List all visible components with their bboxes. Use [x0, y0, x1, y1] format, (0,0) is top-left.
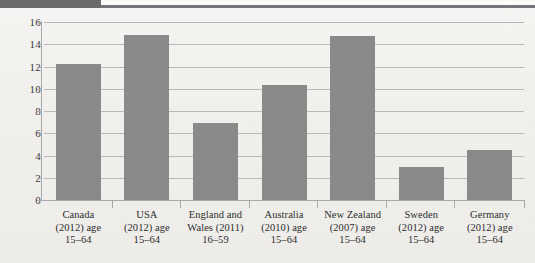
category-label-line: 15–64 — [387, 234, 456, 247]
category-label-line: 15–64 — [318, 234, 387, 247]
y-axis-tick-mark — [37, 200, 42, 201]
category-label-line: Canada — [44, 209, 113, 222]
bar-slot — [250, 22, 319, 200]
plot-area — [44, 22, 524, 200]
bar-slot — [455, 22, 524, 200]
bar[interactable] — [262, 85, 307, 200]
category-label-line: (2012) age — [113, 222, 182, 235]
category-label-line: Australia — [250, 209, 319, 222]
category-label-line: 15–64 — [250, 234, 319, 247]
y-axis-tick-mark — [37, 178, 42, 179]
x-axis-category-label: England andWales (2011)16–59 — [181, 202, 250, 260]
x-axis-categories: Canada(2012) age15–64USA(2012) age15–64E… — [44, 202, 524, 260]
bar-series — [44, 22, 524, 200]
category-label-line: 15–64 — [113, 234, 182, 247]
category-label-line: 15–64 — [455, 234, 524, 247]
category-separator-tick — [180, 200, 181, 208]
bar-slot — [113, 22, 182, 200]
y-axis-labels: 0246810121416 — [8, 10, 41, 210]
category-label-line: (2012) age — [44, 222, 113, 235]
bar-slot — [318, 22, 387, 200]
header-rule — [101, 5, 535, 8]
bar[interactable] — [467, 150, 512, 200]
category-separator-tick — [454, 200, 455, 208]
category-label-line: Wales (2011) — [181, 222, 250, 235]
y-axis-tick-mark — [37, 89, 42, 90]
bar[interactable] — [193, 123, 238, 200]
category-label-line: New Zealand — [318, 209, 387, 222]
y-axis-tick-mark — [37, 44, 42, 45]
category-label-line: England and — [181, 209, 250, 222]
y-axis-tick-mark — [37, 22, 42, 23]
bar[interactable] — [330, 36, 375, 200]
category-label-line: (2012) age — [455, 222, 524, 235]
bar-chart: 0246810121416 Canada(2012) age15–64USA(2… — [0, 10, 535, 263]
category-label-line: Germany — [455, 209, 524, 222]
y-axis-tick-mark — [37, 111, 42, 112]
y-axis-tick-mark — [37, 133, 42, 134]
x-axis-category-label: Canada(2012) age15–64 — [44, 202, 113, 260]
x-axis-category-label: USA(2012) age15–64 — [113, 202, 182, 260]
category-separator-tick — [317, 200, 318, 208]
category-label-line: (2010) age — [250, 222, 319, 235]
bar-slot — [181, 22, 250, 200]
x-axis-category-label: New Zealand(2007) age15–64 — [318, 202, 387, 260]
category-separator-tick — [386, 200, 387, 208]
category-separator-tick — [112, 200, 113, 208]
category-label-line: Sweden — [387, 209, 456, 222]
x-axis-line — [41, 200, 524, 201]
y-axis-tick-mark — [37, 156, 42, 157]
category-label-line: USA — [113, 209, 182, 222]
bar[interactable] — [56, 64, 101, 200]
category-separator-tick — [249, 200, 250, 208]
bar-slot — [387, 22, 456, 200]
category-label-line: (2007) age — [318, 222, 387, 235]
category-label-line: (2012) age — [387, 222, 456, 235]
page-header-band — [0, 0, 535, 8]
bar-slot — [44, 22, 113, 200]
header-block — [0, 0, 101, 8]
category-label-line: 15–64 — [44, 234, 113, 247]
x-axis-category-label: Sweden(2012) age15–64 — [387, 202, 456, 260]
bar[interactable] — [399, 167, 444, 200]
y-axis-tick-mark — [37, 67, 42, 68]
x-axis-category-label: Australia(2010) age15–64 — [250, 202, 319, 260]
x-axis-category-label: Germany(2012) age15–64 — [455, 202, 524, 260]
category-label-line: 16–59 — [181, 234, 250, 247]
category-separator-tick — [524, 200, 525, 208]
bar[interactable] — [124, 35, 169, 200]
